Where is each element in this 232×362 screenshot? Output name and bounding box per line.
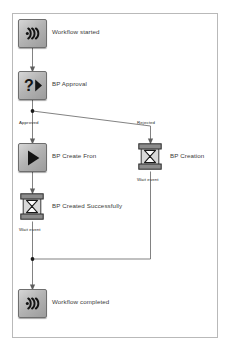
svg-text:?: ? [24,77,34,94]
hourglass-wait-icon [136,143,163,170]
edge-label-rejected: Rejected [137,120,155,125]
broadcast-signal-icon [18,289,47,318]
node-label: BP Create Fron [52,152,96,159]
node-label: BP Creation [170,152,204,159]
question-play-icon: ? [18,71,47,100]
node-label: Workflow started [52,28,100,35]
node-label: BP Created Successfully [52,202,122,209]
edge-split-to-rejected [33,111,151,126]
edge-label-wait-event-created: Wait event [19,227,41,232]
node-label: Workflow completed [52,298,109,305]
workflow-diagram-page: Workflow started ? BP Approval BP Create… [0,0,232,362]
play-triangle-icon [18,143,47,172]
diagram-canvas[interactable]: Workflow started ? BP Approval BP Create… [12,13,218,338]
hourglass-wait-icon [18,193,45,220]
edge-label-approved: Approved [19,120,39,125]
broadcast-signal-icon [18,19,47,48]
split-junction-dot [31,109,35,113]
edge-label-wait-event-creation: Wait event [137,177,159,182]
node-label: BP Approval [52,80,87,87]
merge-junction-dot [31,257,35,261]
